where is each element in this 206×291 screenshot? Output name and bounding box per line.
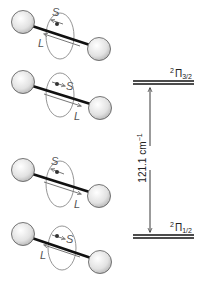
bond <box>26 172 96 194</box>
molecule-row-2: S L <box>12 71 112 123</box>
atom-right <box>88 38 111 61</box>
orbit-label: L <box>74 110 80 122</box>
atom-right <box>88 185 111 208</box>
spin-dot <box>55 82 59 86</box>
atom-left <box>12 71 35 94</box>
spin-label: S <box>52 6 60 18</box>
spin-orbit-diagram: S L S L S L S L <box>0 0 206 291</box>
lower-term-symbol: 2Π1/2 <box>170 221 192 234</box>
spin-label: S <box>66 80 74 92</box>
molecule-row-4: S L <box>12 223 112 274</box>
spin-dot <box>55 22 59 26</box>
spin-dot <box>55 234 59 238</box>
upper-term-symbol: 2Π3/2 <box>170 67 192 80</box>
orbit-label: L <box>74 198 80 210</box>
atom-left <box>12 11 35 34</box>
molecule-row-3: S L <box>12 155 111 210</box>
atom-right <box>89 97 112 120</box>
atom-left <box>12 223 35 246</box>
energy-level-lower: 2Π1/2 <box>133 221 194 238</box>
orbit-label: L <box>38 37 44 49</box>
splitting-label: 121.1cm−1 <box>136 133 148 182</box>
spin-label: S <box>66 233 74 245</box>
atom-right <box>89 251 112 274</box>
molecule-row-1: S L <box>12 6 111 61</box>
bond <box>26 84 97 106</box>
bond <box>26 24 96 47</box>
spin-dot <box>55 170 59 174</box>
energy-level-upper: 2Π3/2 <box>133 67 194 84</box>
atom-left <box>12 159 35 182</box>
spin-label: S <box>51 155 59 167</box>
orbit-label: L <box>40 249 46 261</box>
bond <box>26 236 97 260</box>
